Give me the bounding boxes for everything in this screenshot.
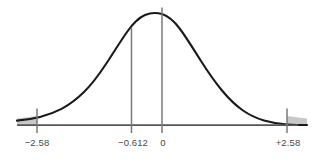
axis-tick-label-pos-2-58: +2.58 (276, 138, 301, 148)
normal-distribution-figure: −2.58 −0.612 0 +2.58 (0, 0, 314, 162)
axis-tick-label-zero: 0 (160, 138, 165, 148)
axis-tick-label-neg-2-58: −2.58 (25, 138, 50, 148)
axis-tick-label-neg-0-612: −0.612 (118, 138, 148, 148)
